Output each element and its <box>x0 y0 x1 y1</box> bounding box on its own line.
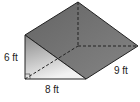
height-label: 6 ft <box>4 53 18 63</box>
base-label: 8 ft <box>45 85 59 95</box>
triangular-prism-diagram <box>0 0 140 102</box>
length-label: 9 ft <box>114 66 128 76</box>
